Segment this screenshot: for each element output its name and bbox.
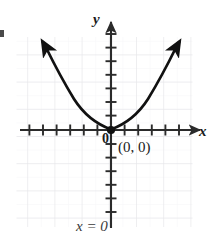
parabola-figure: y x 0 (0, 0) x = 0 (0, 0, 207, 235)
origin-label: 0 (102, 132, 109, 146)
y-axis-label: y (93, 12, 100, 27)
vertex-point-label: (0, 0) (118, 140, 151, 155)
graph-canvas (0, 0, 207, 235)
x-axis-label: x (199, 124, 207, 139)
page-edge-mark (0, 30, 4, 37)
equation-caption: x = 0 (76, 219, 108, 234)
